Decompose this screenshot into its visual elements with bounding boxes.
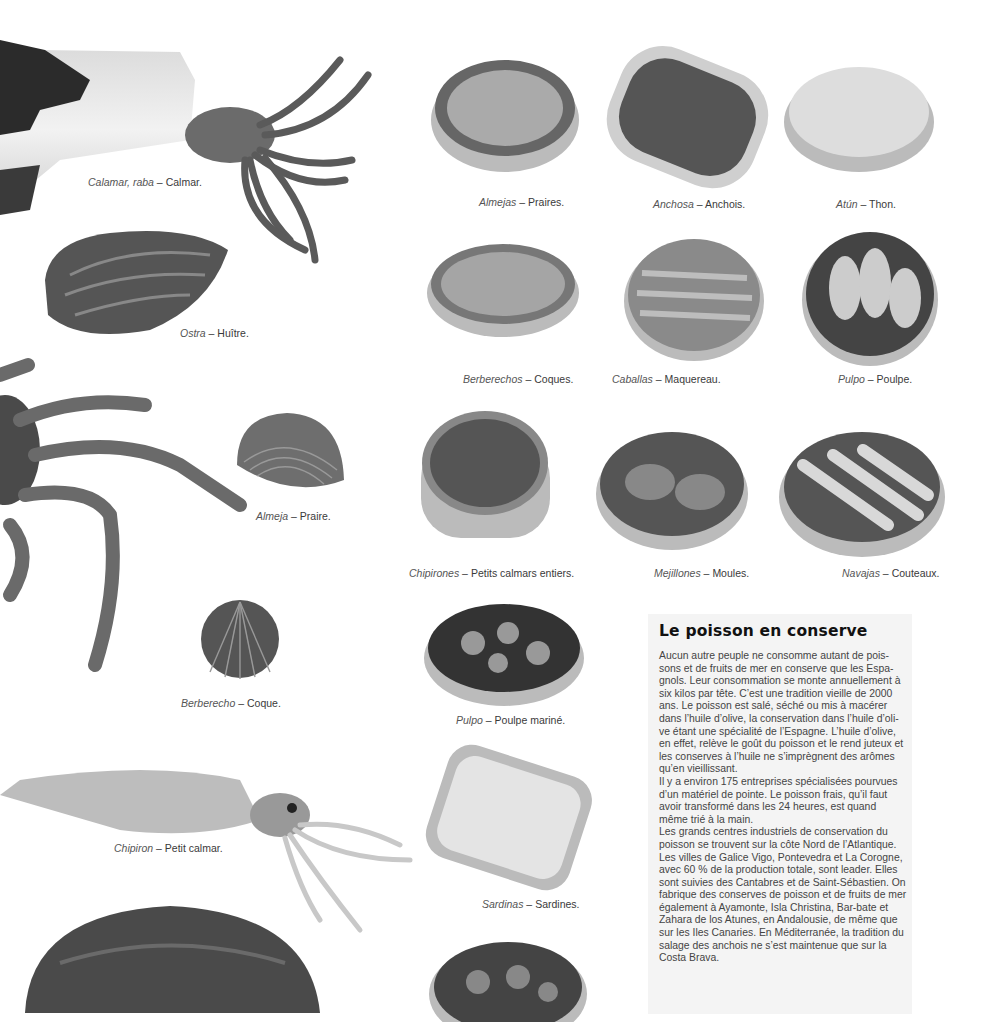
- info-box-body: Aucun autre peuple ne consomme autant de…: [659, 650, 907, 965]
- info-box-title: Le poisson en conserve: [659, 622, 868, 640]
- caption-berberecho: Berberecho – Coque.: [181, 697, 281, 709]
- caption-chipirones: Chipirones – Petits calmars entiers.: [409, 567, 574, 579]
- can-bottom-partial: [428, 932, 588, 1022]
- can-almejas: [430, 50, 580, 175]
- oyster-photo: [40, 225, 235, 340]
- can-anchosa: [605, 52, 770, 182]
- caption-almejas: Almejas – Praires.: [479, 196, 564, 208]
- caption-ostra: Ostra – Huître.: [180, 327, 249, 339]
- caption-sardinas: Sardinas – Sardines.: [482, 898, 580, 910]
- can-sardinas: [425, 750, 590, 890]
- caption-almeja: Almeja – Praire.: [256, 510, 331, 522]
- can-caballas: [622, 233, 767, 363]
- caption-pulpo: Pulpo – Poulpe.: [838, 373, 912, 385]
- caption-calamar: Calamar, raba – Calmar.: [88, 176, 202, 188]
- can-navajas: [778, 425, 946, 560]
- caption-caballas: Caballas – Maquereau.: [612, 373, 721, 385]
- caption-navajas: Navajas – Couteaux.: [842, 567, 940, 579]
- crab-photo: [20, 903, 325, 1018]
- caption-berberechos: Berberechos – Coques.: [463, 373, 573, 385]
- caption-chipiron: Chipiron – Petit calmar.: [114, 842, 223, 854]
- caption-anchosa: Anchosa – Anchois.: [653, 198, 745, 210]
- can-mejillones: [595, 422, 750, 552]
- info-box: Le poisson en conserve Aucun autre peupl…: [648, 614, 912, 1014]
- caption-pulpo-marine: Pulpo – Poulpe mariné.: [456, 714, 565, 726]
- can-atun: [783, 58, 935, 173]
- clam-photo: [232, 410, 347, 500]
- can-pulpo: [800, 228, 940, 368]
- caption-atun: Atún – Thon.: [836, 198, 896, 210]
- can-chipirones: [418, 408, 553, 548]
- cockle-photo: [200, 597, 282, 682]
- can-berberechos: [426, 238, 581, 338]
- can-pulpo-marine: [423, 598, 585, 708]
- caption-mejillones: Mejillones – Moules.: [654, 567, 749, 579]
